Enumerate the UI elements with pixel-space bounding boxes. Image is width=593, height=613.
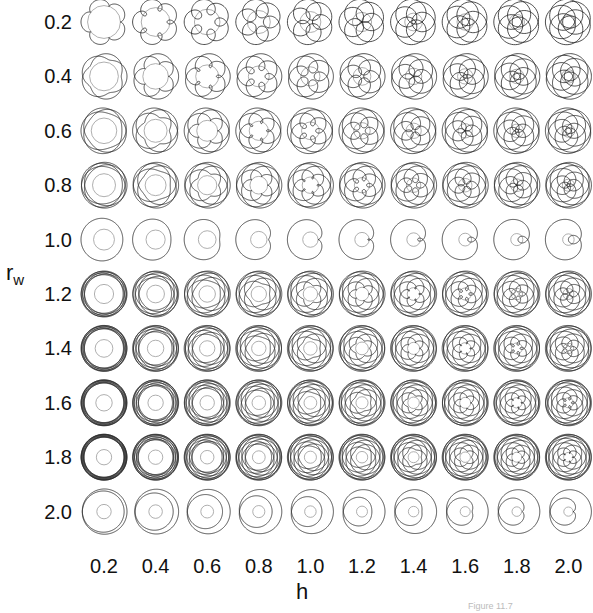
- trochoid-curve: [392, 54, 437, 99]
- x-axis-title: h: [296, 581, 308, 603]
- y-tick-label: 0.2: [22, 12, 72, 32]
- trochoid-curve: [288, 271, 334, 317]
- curve-cell: [81, 218, 123, 261]
- curve-cell: [185, 271, 231, 317]
- x-tick-label: 1.2: [337, 556, 387, 576]
- fixed-circle: [460, 397, 471, 408]
- trochoid-curve: [287, 0, 331, 45]
- trochoid-curve: [545, 219, 581, 259]
- trochoid-curve: [184, 0, 228, 45]
- fixed-circle: [145, 175, 166, 196]
- curve-cell: [494, 0, 539, 45]
- fixed-circle: [149, 505, 163, 519]
- trochoid-curve: [133, 271, 179, 317]
- y-tick-label: 1.4: [22, 338, 72, 358]
- trochoid-curve: [133, 325, 179, 371]
- trochoid-curve: [545, 434, 591, 480]
- trochoid-curve: [186, 54, 231, 99]
- fixed-circle: [96, 395, 112, 411]
- fixed-circle: [250, 176, 268, 194]
- fixed-circle: [356, 342, 369, 355]
- curve-cell: [81, 434, 127, 480]
- trochoid-curve: [545, 0, 590, 45]
- trochoid-curve: [339, 108, 384, 154]
- trochoid-curve: [82, 54, 127, 99]
- fixed-circle: [563, 289, 574, 300]
- trochoid-curve: [391, 271, 437, 317]
- curve-cell: [81, 271, 127, 317]
- fixed-circle: [459, 233, 472, 246]
- curve-cell: [236, 271, 282, 317]
- fixed-circle: [304, 451, 316, 463]
- curve-cell: [443, 271, 489, 317]
- trochoid-curve: [443, 271, 489, 317]
- trochoid-curve: [287, 325, 333, 371]
- curve-cell: [236, 325, 282, 371]
- trochoid-curve: [287, 220, 322, 260]
- curve-cell: [184, 108, 229, 154]
- trochoid-curve: [135, 489, 179, 534]
- curve-cell: [239, 490, 281, 534]
- curve-cell: [81, 380, 127, 426]
- fixed-circle: [143, 64, 169, 90]
- fixed-circle: [197, 120, 218, 141]
- curve-cell: [81, 325, 127, 371]
- fixed-circle: [201, 505, 214, 518]
- trochoid-curve: [134, 54, 179, 99]
- fixed-circle: [252, 396, 266, 410]
- trochoid-curve: [287, 108, 332, 154]
- fixed-circle: [90, 62, 119, 91]
- trochoid-curve: [81, 325, 127, 371]
- curve-cell: [133, 108, 178, 154]
- trochoid-curve: [185, 271, 231, 317]
- fixed-circle: [408, 506, 418, 516]
- fixed-circle: [148, 450, 162, 464]
- curve-cell: [287, 220, 322, 260]
- curve-cell: [291, 490, 333, 534]
- trochoid-curve: [545, 108, 590, 154]
- curve-cell: [288, 380, 334, 426]
- fixed-circle: [305, 506, 317, 517]
- trochoid-curve: [443, 162, 488, 208]
- curve-cell: [392, 54, 437, 99]
- curve-cell: [495, 54, 540, 100]
- trochoid-curve: [550, 490, 592, 534]
- fixed-circle: [408, 342, 420, 354]
- curve-cell: [442, 325, 488, 371]
- fixed-circle: [198, 231, 216, 249]
- trochoid-curve: [81, 218, 123, 261]
- trochoid-curve: [81, 162, 127, 208]
- trochoid-curve: [494, 108, 539, 154]
- trochoid-curve: [339, 220, 374, 260]
- trochoid-curve: [133, 108, 178, 154]
- curve-cell: [546, 54, 591, 100]
- curve-cell: [447, 490, 489, 534]
- trochoid-curve: [494, 380, 540, 426]
- trochoid-curve: [81, 380, 127, 426]
- curve-cell: [339, 271, 385, 317]
- curve-cell: [339, 380, 385, 426]
- trochoid-curve: [185, 162, 230, 208]
- trochoid-curve: [81, 108, 126, 154]
- curve-cell: [287, 325, 333, 371]
- fixed-circle: [356, 397, 368, 409]
- trochoid-curve: [391, 434, 437, 480]
- curve-cell: [339, 108, 384, 154]
- curve-cell: [184, 434, 230, 480]
- y-axis-title-subscript: w: [13, 271, 24, 288]
- trochoid-curve: [442, 0, 487, 45]
- curve-cell: [184, 380, 230, 426]
- trochoid-curve: [236, 108, 281, 154]
- curve-cell: [545, 434, 591, 480]
- curve-cell: [133, 162, 178, 208]
- fixed-circle: [200, 341, 215, 356]
- fixed-circle: [252, 341, 266, 355]
- trochoid-curve: [546, 271, 592, 317]
- curve-cell: [442, 220, 477, 260]
- trochoid-curve: [288, 162, 333, 208]
- fixed-circle: [198, 176, 217, 195]
- trochoid-curve: [236, 325, 282, 371]
- trochoid-curve: [442, 325, 488, 371]
- curve-cell: [236, 0, 280, 45]
- curve-cell: [339, 0, 383, 45]
